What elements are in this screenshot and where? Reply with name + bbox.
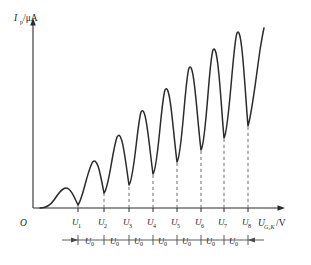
tick-label-sub: 5 [177, 223, 180, 229]
interval-arrow-left [71, 238, 78, 243]
interval-label-sub: 0 [91, 241, 94, 247]
interval-label-7: U 0 [229, 236, 238, 247]
figure-canvas: I p /μA O U G₂K /V U 1 U 2 U 3 [0, 0, 311, 265]
interval-label-sub: 0 [212, 241, 215, 247]
interval-label-sub: 0 [235, 241, 238, 247]
interval-labels: U 0 U 0 U 0 U 0 U 0 U 0 [85, 236, 238, 247]
x-axis-ticks [78, 208, 248, 212]
x-tick-label-2: U 2 [98, 217, 107, 229]
x-tick-label-1: U 1 [72, 217, 81, 229]
interval-label-3: U 0 [134, 236, 143, 247]
interval-arrow-right [248, 238, 255, 243]
x-tick-labels: U 1 U 2 U 3 U 4 U 5 U 6 [72, 217, 251, 229]
tick-label-sub: 8 [248, 223, 251, 229]
tick-label-sub: 2 [104, 223, 107, 229]
x-tick-label-5: U 5 [171, 217, 180, 229]
x-tick-label-6: U 6 [195, 217, 204, 229]
x-axis-label-unit: /V [276, 218, 286, 228]
interval-label-5: U 0 [182, 236, 191, 247]
x-axis-arrowhead [278, 205, 286, 211]
tick-label-sub: 1 [78, 223, 81, 229]
y-axis-label: I p /μA [13, 13, 38, 25]
tick-label-sub: 3 [129, 223, 132, 229]
tick-label-sub: 7 [224, 223, 227, 229]
x-axis-label-sub: G₂K [264, 224, 275, 230]
x-tick-label-8: U 8 [242, 217, 251, 229]
interval-label-1: U 0 [85, 236, 94, 247]
y-axis-label-main: I [13, 13, 18, 23]
interval-label-sub: 0 [140, 241, 143, 247]
x-tick-label-7: U 7 [218, 217, 227, 229]
interval-label-sub: 0 [164, 241, 167, 247]
interval-label-4: U 0 [158, 236, 167, 247]
tick-label-sub: 4 [153, 223, 156, 229]
franck-hertz-figure: I p /μA O U G₂K /V U 1 U 2 U 3 [0, 0, 311, 265]
interval-label-sub: 0 [116, 241, 119, 247]
interval-label-sub: 0 [188, 241, 191, 247]
y-axis-label-unit: /μA [23, 13, 38, 23]
x-tick-label-4: U 4 [147, 217, 156, 229]
tick-label-sub: 6 [201, 223, 204, 229]
franck-hertz-curve [40, 28, 264, 208]
interval-label-2: U 0 [110, 236, 119, 247]
interval-label-6: U 0 [206, 236, 215, 247]
minima-droplines [78, 126, 248, 208]
origin-label: O [20, 218, 27, 228]
x-tick-label-3: U 3 [123, 217, 132, 229]
x-axis-label: U G₂K /V [258, 218, 286, 230]
